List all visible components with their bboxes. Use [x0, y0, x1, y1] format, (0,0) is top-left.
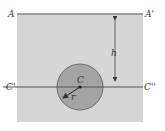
- label-center: C: [77, 75, 84, 85]
- label-a: A: [7, 9, 15, 19]
- buoyancy-diagram: A A' C' C'' C h r: [0, 0, 165, 131]
- label-c-prime: C': [6, 82, 15, 92]
- label-radius: r: [71, 92, 76, 102]
- label-height: h: [111, 48, 117, 58]
- label-a-prime: A': [144, 9, 154, 19]
- label-c-double-prime: C'': [144, 82, 156, 92]
